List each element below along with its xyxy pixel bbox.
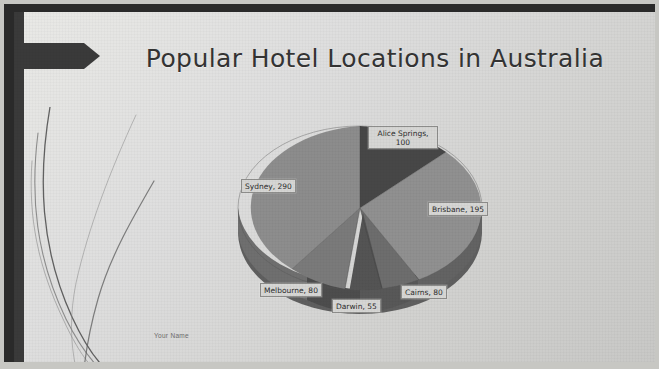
grass-curves-decoration xyxy=(14,107,184,362)
slide-frame: Popular Hotel Locations in Australia You… xyxy=(4,4,655,362)
arrow-banner-icon xyxy=(22,43,100,69)
page-title: Popular Hotel Locations in Australia xyxy=(140,44,610,73)
slide-canvas: Popular Hotel Locations in Australia You… xyxy=(14,12,655,362)
data-label-darwin: Darwin, 55 xyxy=(332,299,381,313)
footer-placeholder: Your Name xyxy=(154,332,189,339)
data-label-melbourne: Melbourne, 80 xyxy=(260,283,322,297)
screen: Popular Hotel Locations in Australia You… xyxy=(0,0,659,369)
data-label-sydney: Sydney, 290 xyxy=(241,179,296,193)
pie-chart[interactable]: Alice Springs, 100 Brisbane, 195 Cairns,… xyxy=(232,110,492,325)
data-label-alice-springs: Alice Springs, 100 xyxy=(368,126,438,149)
data-label-cairns: Cairns, 80 xyxy=(401,285,447,299)
data-label-brisbane: Brisbane, 195 xyxy=(428,202,488,216)
